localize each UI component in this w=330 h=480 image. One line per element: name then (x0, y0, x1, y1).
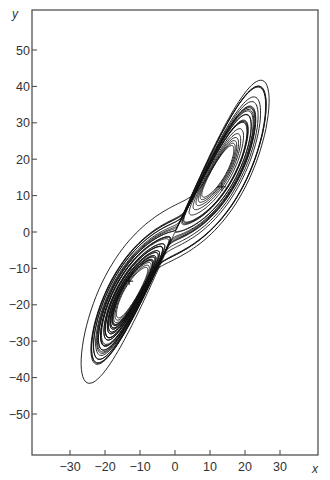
y-tick-label: 10 (16, 189, 30, 203)
x-tick-label: 30 (273, 460, 287, 474)
x-tick-label: 20 (238, 460, 252, 474)
y-tick-label: 20 (16, 153, 30, 167)
y-tick-label: −40 (9, 371, 30, 385)
x-tick-label: 0 (172, 460, 179, 474)
y-tick-label: −50 (9, 408, 30, 422)
y-tick-label: 40 (16, 80, 30, 94)
x-axis-ticks: −30−20−100102030 (59, 450, 287, 474)
lorenz-attractor-chart: −30−20−100102030 50403020100−10−20−30−40… (0, 0, 330, 480)
x-tick-label: −20 (94, 460, 115, 474)
y-axis-label: y (11, 7, 19, 21)
attractor-trajectory (81, 80, 269, 383)
y-tick-label: −20 (9, 298, 30, 312)
y-tick-label: −30 (9, 335, 30, 349)
trajectory-line (81, 80, 269, 383)
y-axis-ticks: 50403020100−10−20−30−40−50 (9, 44, 37, 422)
y-tick-label: −10 (9, 262, 30, 276)
y-tick-label: 0 (23, 226, 30, 240)
x-tick-label: −30 (59, 460, 80, 474)
x-tick-label: −10 (129, 460, 150, 474)
x-tick-label: 10 (203, 460, 217, 474)
y-tick-label: 30 (16, 116, 30, 130)
y-tick-label: 50 (16, 44, 30, 58)
x-axis-label: x (311, 462, 319, 476)
